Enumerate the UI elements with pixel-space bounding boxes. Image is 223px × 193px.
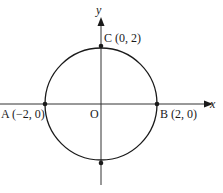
point-bottom [99, 161, 104, 166]
y-axis-label: y [95, 3, 102, 17]
point-c [99, 44, 104, 49]
coordinate-diagram: x y A (−2, 0) B (2, 0) C (0, 2) O [0, 0, 223, 193]
point-b-label: B (2, 0) [160, 107, 197, 121]
point-a [43, 102, 48, 107]
point-a-label: A (−2, 0) [1, 107, 45, 121]
point-b [155, 102, 160, 107]
point-c-label: C (0, 2) [104, 31, 141, 45]
x-axis-label: x [209, 97, 216, 111]
y-axis-arrow-icon [98, 17, 105, 26]
origin-label: O [90, 107, 99, 121]
